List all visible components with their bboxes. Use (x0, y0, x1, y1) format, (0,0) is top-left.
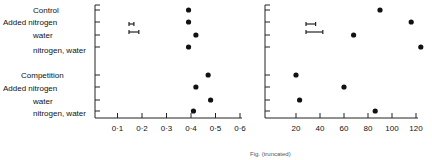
x-tick-label: 0·3 (161, 124, 173, 133)
data-point (186, 44, 191, 49)
x-tick-label: 120 (409, 124, 422, 133)
figure-caption: Fig. (truncated) (250, 151, 291, 157)
data-point (186, 19, 191, 24)
data-point (193, 84, 198, 89)
data-point (373, 108, 378, 113)
data-point (293, 72, 298, 77)
data-point (409, 19, 414, 24)
data-point (191, 108, 196, 113)
data-point (208, 97, 213, 102)
data-point (351, 32, 356, 37)
data-point (186, 7, 191, 12)
x-tick-label: 40 (316, 124, 325, 133)
x-tick-label: 0·5 (210, 124, 222, 133)
x-tick-label: 20 (292, 124, 301, 133)
chart-svg (0, 0, 432, 160)
data-point (297, 97, 302, 102)
x-tick-label: 0·2 (136, 124, 148, 133)
x-tick-label: 100 (385, 124, 398, 133)
data-point (193, 32, 198, 37)
x-tick-label: 80 (364, 124, 373, 133)
x-tick-label: 0·6 (234, 124, 246, 133)
x-tick-label: 0·1 (112, 124, 124, 133)
data-point (206, 72, 211, 77)
data-point (341, 84, 346, 89)
x-tick-label: 0·4 (185, 124, 197, 133)
data-point (377, 7, 382, 12)
x-tick-label: 60 (340, 124, 349, 133)
data-point (418, 44, 423, 49)
